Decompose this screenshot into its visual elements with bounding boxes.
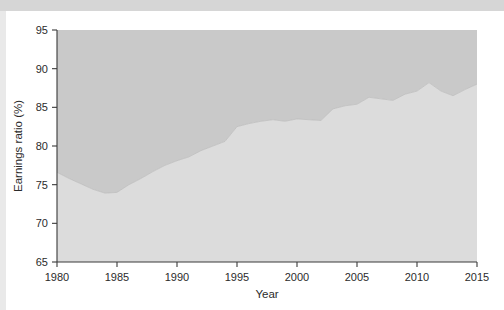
x-tick-label: 2010 xyxy=(405,271,429,283)
x-axis-tick-labels: 19801985199019952000200520102015 xyxy=(45,271,489,283)
x-tick-label: 2015 xyxy=(465,271,489,283)
y-axis-ticks xyxy=(52,30,57,262)
x-tick-label: 1980 xyxy=(45,271,69,283)
y-tick-label: 90 xyxy=(36,63,48,75)
y-tick-label: 95 xyxy=(36,24,48,36)
x-tick-label: 1985 xyxy=(105,271,129,283)
y-tick-label: 65 xyxy=(36,256,48,268)
y-axis-title: Earnings ratio (%) xyxy=(12,100,24,192)
x-tick-label: 2005 xyxy=(345,271,369,283)
y-tick-label: 85 xyxy=(36,101,48,113)
chart-figure: 65707580859095 1980198519901995200020052… xyxy=(0,0,504,310)
x-tick-label: 1995 xyxy=(225,271,249,283)
y-axis-tick-labels: 65707580859095 xyxy=(36,24,48,268)
y-tick-label: 80 xyxy=(36,140,48,152)
x-tick-label: 2000 xyxy=(285,271,309,283)
x-tick-label: 1990 xyxy=(165,271,189,283)
x-axis-ticks xyxy=(57,262,477,267)
x-axis-title: Year xyxy=(255,288,278,300)
y-tick-label: 70 xyxy=(36,217,48,229)
area-chart: 65707580859095 1980198519901995200020052… xyxy=(0,0,504,310)
y-tick-label: 75 xyxy=(36,179,48,191)
